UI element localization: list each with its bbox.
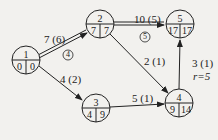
node-3-ls: 9 <box>96 110 109 120</box>
edge-3-4 <box>110 104 164 107</box>
edge-4-5 <box>179 40 180 89</box>
edge-2-4-label: 2 (1) <box>144 56 165 67</box>
node-5-id: 5 <box>174 14 186 24</box>
node-4-id: 4 <box>173 93 185 103</box>
node-4-es: 9 <box>166 105 179 115</box>
node-5-es: 17 <box>166 26 180 36</box>
edge-1-2-label: 7 (6) <box>44 34 65 45</box>
node-2-es: 7 <box>87 26 100 36</box>
node-3-id: 3 <box>90 98 102 108</box>
node-2-id: 2 <box>94 14 106 24</box>
node-4-ls: 14 <box>179 105 193 115</box>
edge-4-5-note: r=5 <box>193 71 210 82</box>
node-1-es: 0 <box>13 62 26 72</box>
edge-1-2-marker: 4 <box>63 50 73 60</box>
edge-3-4-label: 5 (1) <box>132 93 153 104</box>
edge-1-3-label: 4 (2) <box>60 74 81 85</box>
node-5-ls: 17 <box>180 26 194 36</box>
edge-2-5-marker: 5 <box>140 32 150 42</box>
node-1-ls: 0 <box>26 62 39 72</box>
node-1-id: 1 <box>20 50 32 60</box>
edge-4-5-label: 3 (1) <box>192 58 213 69</box>
edge-2-5-label: 10 (5) <box>134 14 161 25</box>
node-3-es: 4 <box>83 110 96 120</box>
node-2-ls: 7 <box>100 26 113 36</box>
network-diagram: 1 0 0 2 7 7 3 4 9 4 9 14 5 17 17 7 (6) 4… <box>0 0 218 140</box>
